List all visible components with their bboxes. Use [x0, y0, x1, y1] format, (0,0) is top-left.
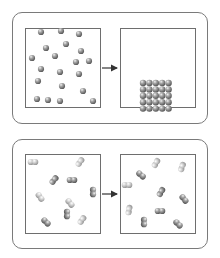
atom-sphere: [38, 66, 44, 72]
atom-sphere: [140, 105, 146, 111]
diatomic-molecule: [155, 208, 166, 214]
diatomic-molecule: [90, 187, 96, 198]
atom-sphere: [153, 99, 159, 105]
diatomic-molecules-before: [28, 156, 96, 228]
atom-sphere: [165, 86, 171, 92]
particle-diagram: [0, 0, 220, 258]
atom-sphere: [57, 98, 63, 104]
diatomic-molecule: [151, 157, 162, 169]
diatomic-molecule: [135, 169, 147, 181]
diatomic-molecule: [28, 159, 39, 165]
atom-sphere: [43, 45, 49, 51]
atom-sphere: [165, 99, 171, 105]
atom-sphere: [71, 177, 77, 183]
diatomic-molecule: [74, 156, 85, 168]
atom-sphere: [159, 99, 165, 105]
gas-atoms: [29, 28, 96, 104]
atom-sphere: [159, 86, 165, 92]
diatomic-molecule: [156, 186, 167, 198]
atom-sphere: [35, 78, 41, 84]
atom-sphere: [153, 86, 159, 92]
atom-sphere: [58, 28, 64, 34]
atom-sphere: [38, 29, 44, 35]
diatomic-molecule: [76, 214, 87, 226]
atom-sphere: [140, 86, 146, 92]
atom-sphere: [159, 80, 165, 86]
atom-sphere: [64, 213, 70, 219]
diatomic-molecule: [122, 182, 133, 188]
atom-sphere: [153, 93, 159, 99]
atom-sphere: [146, 86, 152, 92]
atom-sphere: [86, 58, 92, 64]
atom-sphere: [32, 159, 38, 165]
atom-sphere: [126, 182, 132, 188]
atom-sphere: [34, 96, 40, 102]
atom-sphere: [52, 53, 58, 59]
atom-sphere: [73, 59, 79, 65]
solid-lattice: [140, 80, 172, 112]
atom-sphere: [90, 191, 96, 197]
atom-sphere: [63, 41, 69, 47]
diatomic-molecule: [125, 204, 133, 216]
diatomic-molecule: [40, 216, 52, 228]
atom-sphere: [59, 83, 65, 89]
atom-sphere: [165, 80, 171, 86]
atom-sphere: [146, 80, 152, 86]
atom-sphere: [159, 208, 165, 214]
atom-sphere: [78, 48, 84, 54]
atom-sphere: [80, 88, 86, 94]
atom-sphere: [159, 93, 165, 99]
atom-sphere: [29, 55, 35, 61]
atom-sphere: [140, 80, 146, 86]
diatomic-molecule: [64, 209, 70, 220]
atom-sphere: [140, 99, 146, 105]
atom-sphere: [159, 105, 165, 111]
diatomic-molecule: [172, 218, 184, 230]
atom-sphere: [57, 69, 63, 75]
atom-sphere: [146, 99, 152, 105]
diatomic-molecule: [178, 193, 190, 205]
diatomic-molecule: [177, 161, 186, 173]
atom-sphere: [146, 105, 152, 111]
atom-sphere: [165, 93, 171, 99]
diatomic-molecule: [48, 174, 60, 186]
atom-sphere: [76, 31, 82, 37]
diatomic-molecule: [141, 217, 147, 228]
diatomic-molecule: [67, 177, 78, 183]
atom-sphere: [165, 105, 171, 111]
atom-sphere: [146, 93, 152, 99]
atom-sphere: [90, 98, 96, 104]
atom-sphere: [45, 97, 51, 103]
diatomic-molecule: [64, 197, 76, 209]
atom-sphere: [141, 221, 147, 227]
atom-sphere: [76, 71, 82, 77]
diatomic-molecules-after: [122, 157, 190, 230]
atom-sphere: [153, 80, 159, 86]
atom-sphere: [140, 93, 146, 99]
atom-sphere: [153, 105, 159, 111]
diatomic-molecule: [34, 191, 45, 203]
